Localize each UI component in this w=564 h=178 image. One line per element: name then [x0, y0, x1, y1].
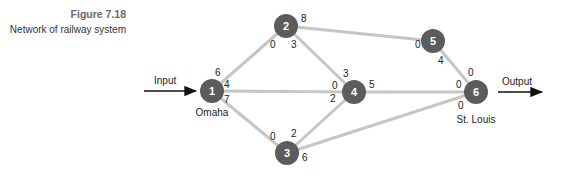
city-st-louis: St. Louis: [457, 114, 496, 125]
node-5: 5: [421, 29, 445, 53]
cap-1-3-at-1: 7: [224, 94, 230, 105]
cap-3-4-at-3: 2: [291, 128, 297, 139]
node-2: 2: [274, 14, 298, 38]
edge-3-6: [287, 92, 476, 153]
input-label: Input: [154, 75, 176, 86]
cap-1-3-at-3: 0: [270, 131, 276, 142]
output-arrow: Output: [498, 76, 542, 92]
cap-2-4-at-2: 3: [291, 39, 297, 50]
edge-1-4: [212, 91, 354, 92]
cap-3-6-at-6: 0: [458, 100, 464, 111]
node-1-label: 1: [209, 85, 215, 97]
cap-4-6-at-6: 0: [456, 79, 462, 90]
city-omaha: Omaha: [196, 107, 229, 118]
node-5-label: 5: [430, 35, 436, 47]
cap-2-5-at-5: 0: [415, 39, 421, 50]
cap-2-5-at-2: 8: [301, 13, 307, 24]
cap-1-2-at-1: 6: [215, 67, 221, 78]
edge-3-4: [287, 92, 354, 153]
input-arrow: Input: [144, 75, 196, 91]
node-6-label: 6: [473, 86, 479, 98]
cap-1-2-at-2: 0: [270, 39, 276, 50]
cap-3-4-at-4: 2: [330, 93, 336, 104]
edge-2-4: [286, 26, 354, 92]
output-label: Output: [502, 76, 532, 87]
cap-3-6-at-3: 6: [302, 152, 308, 163]
railway-network-diagram: Input Output 6 4 7 0 8 3 0 4 3 0 2 5 0 2…: [0, 0, 564, 178]
cap-5-6-at-5: 4: [438, 55, 444, 66]
edge-2-5: [286, 26, 433, 41]
cap-1-4-at-1: 4: [224, 79, 230, 90]
node-3: 3: [275, 141, 299, 165]
cap-4-6-at-4: 5: [369, 79, 375, 90]
node-4: 4: [342, 80, 366, 104]
cap-5-6-at-6: 0: [468, 67, 474, 78]
node-2-label: 2: [283, 20, 289, 32]
node-3-label: 3: [284, 147, 290, 159]
cap-2-4-at-4: 3: [343, 68, 349, 79]
cap-1-4-at-4: 0: [332, 80, 338, 91]
node-4-label: 4: [351, 86, 358, 98]
